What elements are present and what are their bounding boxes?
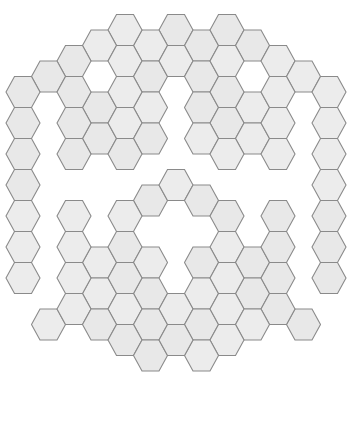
- pattern-canvas: [0, 0, 348, 446]
- hex-grid-svg: [0, 0, 348, 446]
